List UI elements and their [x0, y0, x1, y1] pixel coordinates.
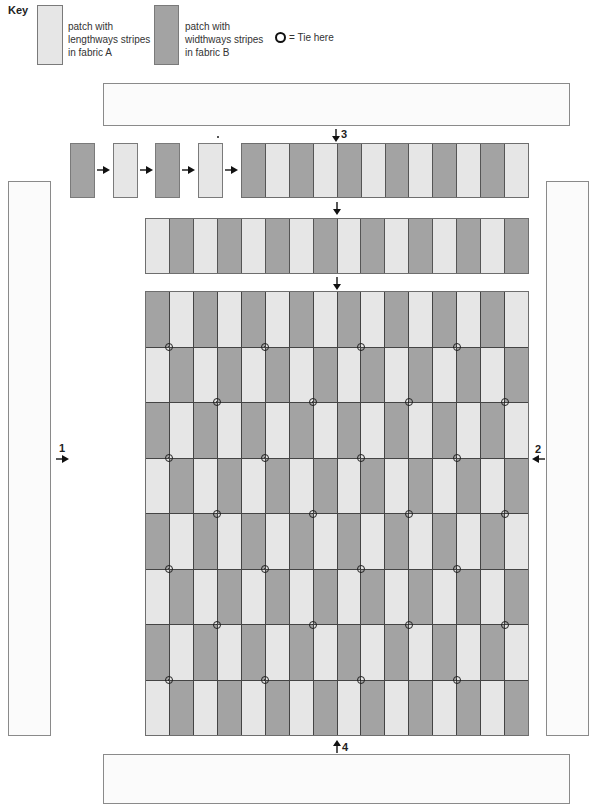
- key-label-line: patch with: [185, 20, 275, 33]
- patch: [290, 219, 314, 273]
- patch: [242, 144, 266, 197]
- patch: [146, 219, 170, 273]
- tie-marker-icon: [261, 676, 269, 684]
- arrow-right-icon: [97, 166, 110, 174]
- patch: [242, 219, 266, 273]
- patch: [457, 219, 481, 273]
- step-3-label: 3: [341, 128, 347, 140]
- arrow-down-icon: [332, 277, 342, 290]
- tie-marker-icon: [309, 510, 317, 518]
- patch: [170, 219, 194, 273]
- arrow-right-icon: [140, 166, 153, 174]
- key-label-line: patch with: [68, 20, 158, 33]
- tie-marker-icon: [357, 454, 365, 462]
- sequence-patch-3: [155, 143, 180, 198]
- tie-marker-icon: [261, 343, 269, 351]
- key-label-fabric-a: patch with lengthways stripes in fabric …: [68, 20, 158, 59]
- bottom-border-panel: [103, 754, 570, 804]
- patch: [266, 219, 290, 273]
- tie-marker-icon: [405, 510, 413, 518]
- tie-icon: [275, 32, 286, 43]
- speck: [217, 136, 219, 138]
- tie-marker-icon: [309, 398, 317, 406]
- tie-marker-icon: [501, 621, 509, 629]
- patch: [409, 219, 433, 273]
- key-label-fabric-b: patch with widthways stripes in fabric B: [185, 20, 275, 59]
- patch: [266, 144, 290, 197]
- patch: [362, 144, 386, 197]
- first-strip: [241, 143, 529, 198]
- key-label-line: in fabric A: [68, 46, 158, 59]
- arrow-right-icon: [225, 166, 238, 174]
- key-title: Key: [8, 4, 28, 16]
- patch: [386, 144, 410, 197]
- tie-marker-icon: [261, 454, 269, 462]
- tie-marker-icon: [165, 454, 173, 462]
- patch: [361, 219, 385, 273]
- key-label-line: lengthways stripes: [68, 33, 158, 46]
- tie-markers-layer: [145, 291, 529, 736]
- patch: [409, 144, 433, 197]
- sequence-patch-4: [198, 143, 223, 198]
- key-swatch-fabric-a: [37, 5, 63, 65]
- tie-marker-icon: [501, 398, 509, 406]
- tie-marker-icon: [309, 621, 317, 629]
- patch: [385, 219, 409, 273]
- left-border-panel: [8, 181, 51, 736]
- tie-marker-icon: [213, 621, 221, 629]
- patch: [505, 219, 528, 273]
- patch: [457, 144, 481, 197]
- tie-marker-icon: [261, 565, 269, 573]
- tie-marker-icon: [501, 510, 509, 518]
- patch: [433, 144, 457, 197]
- patch: [338, 144, 362, 197]
- tie-marker-icon: [453, 343, 461, 351]
- patch: [481, 144, 505, 197]
- patch: [338, 219, 362, 273]
- second-strip: [145, 218, 529, 274]
- sequence-patch-1: [70, 143, 95, 198]
- arrow-right-icon: [56, 455, 69, 463]
- key-tie-label: = Tie here: [289, 32, 334, 43]
- arrow-up-icon: [332, 740, 342, 753]
- right-border-panel: [546, 181, 589, 736]
- key-label-line: widthways stripes: [185, 33, 275, 46]
- tie-marker-icon: [165, 565, 173, 573]
- tie-marker-icon: [165, 343, 173, 351]
- patch: [290, 144, 314, 197]
- tie-marker-icon: [453, 565, 461, 573]
- tie-marker-icon: [405, 621, 413, 629]
- top-border-panel: [103, 83, 570, 126]
- key-swatch-fabric-b: [154, 5, 179, 65]
- key-label-line: in fabric B: [185, 46, 275, 59]
- patch: [433, 219, 457, 273]
- patch: [314, 219, 338, 273]
- tie-marker-icon: [213, 510, 221, 518]
- step-1-label: 1: [59, 442, 65, 454]
- patch: [314, 144, 338, 197]
- tie-marker-icon: [405, 398, 413, 406]
- patch: [194, 219, 218, 273]
- tie-marker-icon: [453, 454, 461, 462]
- arrow-down-icon: [331, 129, 341, 142]
- arrow-right-icon: [182, 166, 195, 174]
- step-2-label: 2: [535, 443, 541, 455]
- tie-marker-icon: [453, 676, 461, 684]
- arrow-down-icon: [332, 202, 342, 215]
- tie-marker-icon: [357, 343, 365, 351]
- key-tie-legend: = Tie here: [275, 32, 334, 43]
- tie-marker-icon: [213, 398, 221, 406]
- tie-marker-icon: [357, 565, 365, 573]
- step-4-label: 4: [342, 741, 348, 753]
- patch: [505, 144, 528, 197]
- arrow-left-icon: [532, 455, 545, 463]
- patch: [481, 219, 505, 273]
- tie-marker-icon: [357, 676, 365, 684]
- sequence-patch-2: [113, 143, 138, 198]
- tie-marker-icon: [165, 676, 173, 684]
- patch: [218, 219, 242, 273]
